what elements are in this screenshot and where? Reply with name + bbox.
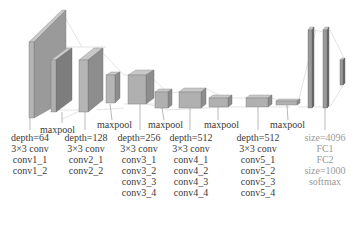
block1-label: depth=64 3×3 conv conv1_1 conv1_2 bbox=[7, 132, 53, 176]
fc1-layer bbox=[308, 27, 314, 108]
fc-label: size=4096 FC1 FC2 size=1000 softmax bbox=[300, 132, 350, 187]
maxpool-label-5: maxpool bbox=[270, 119, 305, 130]
fc-size-1000: size=1000 bbox=[300, 165, 350, 176]
block4-conv3: conv4_3 bbox=[167, 176, 215, 187]
block3-conv2: conv3_2 bbox=[115, 165, 163, 176]
conv1-pool-slab bbox=[51, 48, 72, 112]
fc2-name: FC2 bbox=[300, 154, 350, 165]
conv4-layer-box bbox=[179, 88, 206, 108]
block3-label: depth=256 3×3 conv conv3_1 conv3_2 conv3… bbox=[115, 132, 163, 198]
block2-label: depth=128 3×3 conv conv2_1 conv2_2 bbox=[62, 132, 110, 176]
conv4-pool-box bbox=[209, 95, 232, 107]
conv2-layer-box bbox=[79, 48, 103, 112]
block2-kernel: 3×3 conv bbox=[62, 143, 110, 154]
block5-kernel: 3×3 conv bbox=[234, 143, 282, 154]
block1-conv1: conv1_1 bbox=[7, 154, 53, 165]
block4-label: depth=512 3×3 conv conv4_1 conv4_2 conv4… bbox=[167, 132, 215, 198]
block2-depth: depth=128 bbox=[62, 132, 110, 143]
softmax-name: softmax bbox=[300, 176, 350, 187]
maxpool-label-3: maxpool bbox=[148, 119, 183, 130]
block5-conv4: conv5_4 bbox=[234, 187, 282, 198]
fc2-layer bbox=[323, 27, 329, 108]
maxpool-label-4: maxpool bbox=[204, 119, 239, 130]
conv2-pool-box bbox=[106, 72, 120, 103]
conv3-layer-box bbox=[128, 70, 154, 104]
conv3-pool-box bbox=[155, 89, 172, 108]
fc-size-4096: size=4096 bbox=[300, 132, 350, 143]
fc1-name: FC1 bbox=[300, 143, 350, 154]
block3-kernel: 3×3 conv bbox=[115, 143, 163, 154]
block5-depth: depth=512 bbox=[234, 132, 282, 143]
block4-kernel: 3×3 conv bbox=[167, 143, 215, 154]
block3-conv4: conv3_4 bbox=[115, 187, 163, 198]
block1-depth: depth=64 bbox=[7, 132, 53, 143]
block4-conv4: conv4_4 bbox=[167, 187, 215, 198]
block1-conv2: conv1_2 bbox=[7, 165, 53, 176]
block4-depth: depth=512 bbox=[167, 132, 215, 143]
softmax-layer bbox=[340, 58, 345, 85]
maxpool-label-2: maxpool bbox=[97, 119, 132, 130]
block5-conv2: conv5_2 bbox=[234, 165, 282, 176]
block3-conv3: conv3_3 bbox=[115, 176, 163, 187]
block2-conv1: conv2_1 bbox=[62, 154, 110, 165]
block2-conv2: conv2_2 bbox=[62, 165, 110, 176]
block5-label: depth=512 3×3 conv conv5_1 conv5_2 conv5… bbox=[234, 132, 282, 198]
block4-conv1: conv4_1 bbox=[167, 154, 215, 165]
block3-conv1: conv3_1 bbox=[115, 154, 163, 165]
block1-kernel: 3×3 conv bbox=[7, 143, 53, 154]
conv5-pool-box bbox=[276, 99, 300, 105]
conv5-layer-box bbox=[246, 95, 272, 107]
block4-conv2: conv4_2 bbox=[167, 165, 215, 176]
block5-conv3: conv5_3 bbox=[234, 176, 282, 187]
block5-conv1: conv5_1 bbox=[234, 154, 282, 165]
block3-depth: depth=256 bbox=[115, 132, 163, 143]
